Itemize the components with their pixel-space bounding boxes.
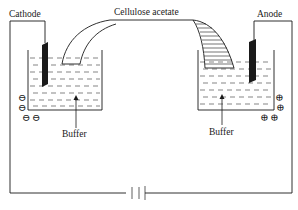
- left-buffer-tank: [28, 50, 102, 110]
- left-buffer-arrow: [74, 95, 79, 128]
- positive-charge-icon: ⊕: [260, 113, 268, 123]
- negative-charge-icon: ⊖: [32, 113, 40, 123]
- cathode-label: Cathode: [9, 10, 41, 20]
- left-buffer-liquid: [30, 58, 100, 106]
- battery-icon: [132, 186, 145, 200]
- positive-charge-icon: ⊕: [270, 113, 278, 123]
- right-buffer-label: Buffer: [209, 128, 234, 138]
- negative-charge-icon: ⊖: [22, 113, 30, 123]
- anode-label: Anode: [257, 10, 282, 20]
- anode-electrode: [249, 39, 256, 83]
- cathode-electrode: [42, 42, 48, 87]
- right-buffer-tank: [198, 50, 274, 110]
- strip-hatching: [196, 24, 233, 64]
- left-buffer-label: Buffer: [62, 130, 87, 140]
- electrophoresis-diagram: Cathode Anode Cellulose acetate Buffer B…: [0, 0, 298, 210]
- right-buffer-arrow: [220, 94, 225, 125]
- cellulose-acetate-label: Cellulose acetate: [114, 8, 179, 18]
